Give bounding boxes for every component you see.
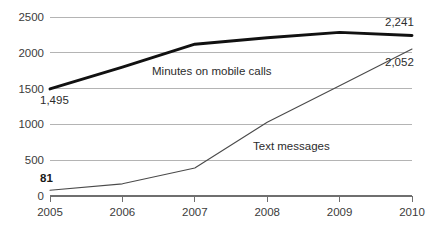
y-tick-label-500: 500 [25, 154, 44, 166]
x-tick-label-2010: 2010 [399, 206, 425, 218]
value-label-texts-end: 2,052 [385, 56, 414, 68]
y-tick-label-1000: 1000 [18, 118, 44, 130]
x-tick-label-2005: 2005 [37, 206, 63, 218]
series-line-minutes-on-mobile-calls [50, 32, 412, 89]
y-tick-label-2500: 2500 [18, 11, 44, 23]
chart-canvas: 2500 2000 1500 1000 500 0 2005 2006 2007 [0, 0, 436, 233]
value-label-minutes-start: 1,495 [40, 94, 69, 106]
x-tick-label-2008: 2008 [254, 206, 280, 218]
y-tick-label-0: 0 [38, 190, 44, 202]
x-axis [50, 196, 412, 202]
series-label-text-messages: Text messages [253, 140, 330, 152]
x-tick-label-2009: 2009 [327, 206, 353, 218]
series-label-minutes-on-mobile-calls: Minutes on mobile calls [152, 65, 272, 77]
gridlines [50, 17, 412, 160]
x-tick-label-2006: 2006 [110, 206, 136, 218]
y-tick-label-1500: 1500 [18, 83, 44, 95]
x-axis-tick-labels: 2005 2006 2007 2008 2009 2010 [37, 206, 425, 218]
series-minutes-on-mobile-calls [50, 32, 412, 89]
value-label-minutes-end: 2,241 [385, 16, 414, 28]
y-tick-label-2000: 2000 [18, 47, 44, 59]
x-tick-label-2007: 2007 [182, 206, 208, 218]
value-label-texts-start: 81 [40, 172, 53, 184]
line-chart: 2500 2000 1500 1000 500 0 2005 2006 2007 [0, 0, 436, 233]
